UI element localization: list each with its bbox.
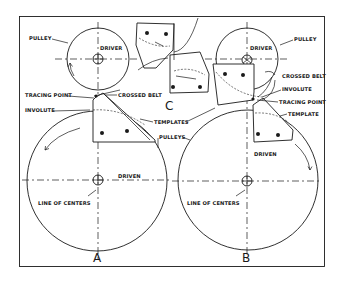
- template-b-upper: [213, 64, 254, 105]
- template-c-lower: [170, 52, 209, 93]
- label-pulley-b: PULLEY: [294, 36, 317, 42]
- label-templates: TEMPLATES: [154, 119, 189, 125]
- label-driven-b: DRIVEN: [254, 151, 277, 157]
- driven-pulley-b: [178, 110, 318, 250]
- label-template-b: TEMPLATE: [288, 111, 319, 117]
- label-pulley-a: PULLEY: [29, 35, 52, 41]
- label-driver-a: DRIVER: [100, 45, 122, 51]
- label-driver-b: DRIVER: [250, 45, 272, 51]
- template-c-upper: [136, 23, 174, 68]
- figure-frame: [20, 17, 325, 267]
- label-driven-a: DRIVEN: [118, 173, 141, 179]
- rotation-arrow-driven-b: [295, 144, 310, 170]
- panel-label-a: A: [93, 251, 102, 265]
- rotation-arrow-driven-a: [45, 128, 80, 150]
- label-pulleys: PULLEYS: [159, 134, 186, 140]
- label-involute-a: INVOLUTE: [25, 107, 55, 113]
- label-crossed-belt-a: CROSSED BELT: [118, 92, 162, 98]
- label-line-of-centers-a: LINE OF CENTERS: [38, 200, 91, 206]
- label-crossed-belt-b: CROSSED BELT: [282, 73, 326, 79]
- belt-involute-diagram: PULLEY DRIVER TRACING POINT CROSSED BELT…: [0, 0, 341, 283]
- panel-label-c: C: [165, 99, 173, 113]
- label-line-of-centers-b: LINE OF CENTERS: [187, 200, 240, 206]
- panel-c: C TEMPLATES PULLEYS: [136, 18, 215, 148]
- panel-label-b: B: [242, 251, 250, 265]
- label-tracing-point-b: TRACING POINT: [279, 99, 326, 105]
- label-tracing-point-a: TRACING POINT: [25, 92, 72, 98]
- label-involute-b: INVOLUTE: [282, 86, 312, 92]
